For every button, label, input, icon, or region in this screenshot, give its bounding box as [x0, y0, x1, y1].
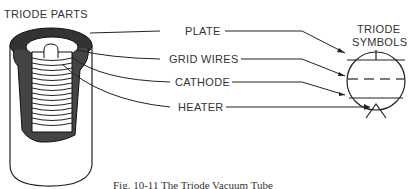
triode-symbols-title-2: SYMBOLS [350, 36, 409, 48]
figure-caption: Fig. 10-11 The Triode Vacuum Tube [113, 179, 273, 189]
label-grid-wires: GRID WIRES [167, 53, 241, 65]
label-cathode: CATHODE [173, 76, 232, 88]
triode-tube-drawing [10, 28, 92, 186]
label-plate: PLATE [183, 25, 223, 37]
label-heater: HEATER [176, 101, 226, 113]
triode-symbols-title-1: TRIODE [355, 23, 402, 35]
triode-parts-title: TRIODE PARTS [2, 8, 90, 20]
triode-symbol [347, 50, 405, 118]
